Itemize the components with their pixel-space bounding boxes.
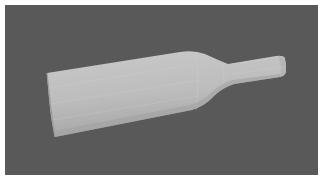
bottle-body xyxy=(47,51,286,137)
bottle-render xyxy=(0,0,324,181)
